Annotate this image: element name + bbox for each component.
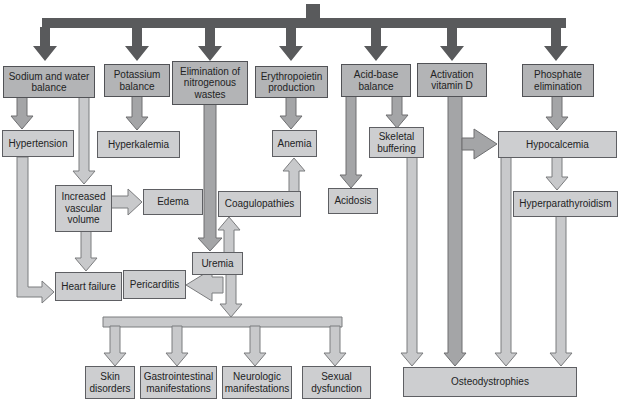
flowchart-canvas: Sodium and water balance Potassium balan… <box>0 0 624 404</box>
arrow-phosphate-to-hypocalcemia <box>546 95 568 130</box>
node-label: Erythropoietin production <box>257 71 326 94</box>
arrow-sodium-to-hypertension <box>11 95 33 129</box>
arrow-sodium-to-increased-volume <box>73 96 95 184</box>
node-skeletal-buffering: Skeletal buffering <box>369 127 424 158</box>
node-sodium-water-balance: Sodium and water balance <box>3 66 95 98</box>
node-label: Phosphate elimination <box>524 69 592 92</box>
node-label: Increased vascular volume <box>57 191 110 226</box>
node-skin-disorders: Skin disorders <box>85 366 135 399</box>
arrow-bar-to-sexual-dysfunction <box>324 326 346 366</box>
node-neurologic-manifestations: Neurologic manifestations <box>222 366 292 399</box>
arrow-coagulopathies-to-anemia <box>283 158 305 192</box>
arrow-hypocalcemia-to-osteodystrophies <box>495 157 517 366</box>
node-increased-vascular-volume: Increased vascular volume <box>55 185 112 232</box>
node-label: Sodium and water balance <box>5 71 93 94</box>
node-label: Hyperparathyroidism <box>519 198 611 210</box>
node-gastrointestinal-manifestations: Gastrointestinal manifestations <box>140 366 217 399</box>
arrow-bar-to-neurologic <box>244 326 266 366</box>
node-label: Potassium balance <box>106 69 168 92</box>
node-acidosis: Acidosis <box>328 188 378 214</box>
node-potassium-balance: Potassium balance <box>104 64 170 97</box>
node-label: Hypertension <box>9 138 68 150</box>
trunk-arrow-potassium <box>125 27 149 61</box>
node-label: Skeletal buffering <box>371 131 422 154</box>
arrow-vitamin-d-to-hypocalcemia <box>462 129 497 159</box>
node-activation-vitamin-d: Activation vitamin D <box>417 63 487 97</box>
arrow-increased-volume-to-edema <box>111 189 142 215</box>
node-hyperkalemia: Hyperkalemia <box>97 131 180 158</box>
node-label: Anemia <box>278 138 312 150</box>
arrow-hypocalcemia-to-hyperparathyroidism <box>546 157 568 190</box>
manifestation-bar <box>103 317 342 327</box>
node-label: Skin disorders <box>87 371 133 394</box>
node-label: Acidosis <box>334 195 371 207</box>
node-label: Elimination of nitrogenous wastes <box>174 66 246 101</box>
node-label: Activation vitamin D <box>419 69 485 92</box>
trunk-arrow-elimination <box>198 27 222 61</box>
node-osteodystrophies: Osteodystrophies <box>403 367 577 397</box>
node-heart-failure: Heart failure <box>55 272 122 301</box>
arrow-vitamin-d-to-osteodystrophies <box>444 96 466 366</box>
node-label: Osteodystrophies <box>451 376 529 388</box>
arrow-acid-base-to-skeletal-buffering <box>386 96 408 128</box>
node-label: Hypocalcemia <box>526 139 589 151</box>
node-elimination-nitrogenous-wastes: Elimination of nitrogenous wastes <box>172 61 248 105</box>
node-hypertension: Hypertension <box>2 130 74 157</box>
node-phosphate-elimination: Phosphate elimination <box>522 64 594 97</box>
arrow-hypertension-to-heart-failure <box>17 157 54 303</box>
arrow-increased-volume-to-heart-failure <box>75 230 97 271</box>
node-label: Gastrointestinal manifestations <box>142 371 215 394</box>
node-label: Coagulopathies <box>225 198 295 210</box>
node-hyperparathyroidism: Hyperparathyroidism <box>513 191 618 217</box>
trunk-bar <box>42 18 566 28</box>
node-hypocalcemia: Hypocalcemia <box>498 131 617 158</box>
node-anemia: Anemia <box>272 130 317 157</box>
arrow-erythropoietin-to-anemia <box>280 96 302 129</box>
trunk-arrow-erythropoietin <box>279 27 303 61</box>
node-label: Acid-base balance <box>343 69 409 92</box>
trunk-arrow-acid-base <box>364 27 388 61</box>
node-label: Hyperkalemia <box>108 139 169 151</box>
trunk-arrow-phosphate <box>544 27 568 61</box>
node-coagulopathies: Coagulopathies <box>218 191 301 217</box>
arrow-potassium-to-hyperkalemia <box>126 96 148 130</box>
trunk-arrow-sodium <box>33 27 57 61</box>
node-uremia: Uremia <box>192 252 243 275</box>
node-label: Neurologic manifestations <box>224 371 290 394</box>
trunk-stub <box>306 4 320 19</box>
node-label: Uremia <box>201 258 233 270</box>
node-label: Sexual dysfunction <box>304 371 369 394</box>
node-edema: Edema <box>143 189 203 215</box>
arrow-bar-to-gastrointestinal <box>166 326 188 366</box>
arrow-skeletal-buffering-to-osteodystrophies <box>401 157 423 366</box>
arrow-bar-to-skin-disorders <box>104 326 126 366</box>
node-erythropoietin-production: Erythropoietin production <box>255 66 328 98</box>
node-label: Heart failure <box>61 281 115 293</box>
node-acid-base-balance: Acid-base balance <box>341 64 411 97</box>
trunk-arrow-vitamin-d <box>440 27 464 61</box>
node-label: Pericarditis <box>130 279 179 291</box>
arrow-hyperparathyroidism-to-osteodystrophies <box>550 216 572 366</box>
node-pericarditis: Pericarditis <box>123 270 186 299</box>
arrow-uremia-to-coagulopathies <box>218 217 240 253</box>
arrow-acid-base-to-acidosis <box>340 96 362 188</box>
node-label: Edema <box>157 196 189 208</box>
node-sexual-dysfunction: Sexual dysfunction <box>302 366 371 399</box>
